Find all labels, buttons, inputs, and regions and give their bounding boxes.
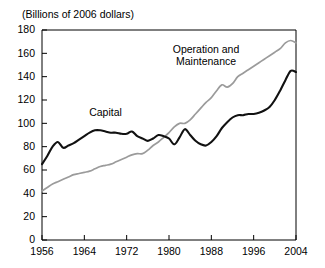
chart-svg: 020406080100120140160180 195619641972198… [0, 0, 325, 268]
series-line-operation-and-maintenance [42, 41, 296, 192]
x-axis-tick-label: 1972 [115, 245, 139, 257]
series-line-capital [42, 70, 296, 164]
y-axis-tick-labels: 020406080100120140160180 [17, 23, 35, 245]
y-axis-tick-label: 180 [17, 23, 35, 35]
series-label: Capital [89, 106, 122, 118]
y-axis-tick-label: 120 [17, 93, 35, 105]
y-axis-tick-label: 160 [17, 47, 35, 59]
y-axis-tick-label: 60 [23, 163, 35, 175]
axis-ticks [42, 30, 296, 240]
plot-frame [42, 30, 296, 240]
x-axis-tick-label: 1964 [73, 245, 97, 257]
series-label: Operation and [173, 43, 240, 55]
x-axis-tick-label: 1996 [242, 245, 266, 257]
x-axis-tick-labels: 1956196419721980198819962004 [30, 245, 308, 257]
series-label: Maintenance [176, 55, 236, 67]
y-axis-tick-label: 20 [23, 210, 35, 222]
chart-container: (Billions of 2006 dollars) 0204060801001… [0, 0, 325, 268]
y-axis-tick-label: 0 [29, 233, 35, 245]
y-axis-tick-label: 40 [23, 187, 35, 199]
y-axis-tick-label: 140 [17, 70, 35, 82]
x-axis-tick-label: 2004 [284, 245, 308, 257]
series-annotations: CapitalOperation andMaintenance [89, 43, 239, 118]
x-axis-tick-label: 1988 [200, 245, 224, 257]
x-axis-tick-label: 1980 [157, 245, 181, 257]
x-axis-tick-label: 1956 [30, 245, 54, 257]
y-axis-tick-label: 80 [23, 140, 35, 152]
y-axis-tick-label: 100 [17, 117, 35, 129]
